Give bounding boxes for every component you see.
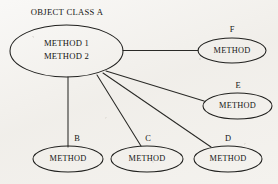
diagram-canvas: B C D E F OBJECT CLASS A METHOD 1 METHOD… (0, 0, 278, 184)
edge-to-c (97, 75, 141, 146)
node-c-label: METHOD (129, 154, 166, 163)
edge-label-d: D (225, 134, 231, 143)
node-f[interactable]: METHOD (198, 38, 266, 63)
edge-label-c: C (145, 134, 151, 143)
diagram-title: OBJECT CLASS A (31, 7, 104, 17)
edge-label-e: E (235, 81, 240, 90)
node-e[interactable]: METHOD (203, 93, 272, 119)
node-b[interactable]: METHOD (33, 146, 103, 172)
node-object-class-a-line1: METHOD 1 (44, 38, 89, 48)
object-class-diagram: B C D E F OBJECT CLASS A METHOD 1 METHOD… (0, 0, 278, 184)
edge-to-e (106, 71, 204, 101)
node-object-class-a[interactable]: METHOD 1 METHOD 2 (10, 25, 123, 77)
node-d[interactable]: METHOD (194, 146, 262, 172)
edge-label-b: B (74, 134, 80, 143)
edge-label-layer: B C D E F (74, 25, 240, 143)
edge-label-f: F (230, 25, 235, 34)
node-d-label: METHOD (210, 154, 247, 163)
node-object-class-a-line2: METHOD 2 (44, 51, 89, 61)
edge-layer (68, 51, 211, 148)
node-c[interactable]: METHOD (111, 146, 183, 172)
node-e-label: METHOD (219, 101, 256, 110)
node-b-label: METHOD (50, 154, 87, 163)
node-f-label: METHOD (214, 46, 251, 55)
